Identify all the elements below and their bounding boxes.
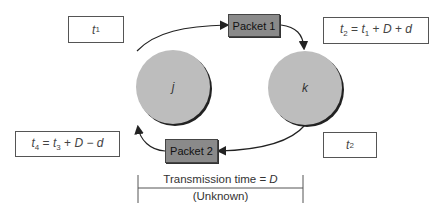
packet-2: Packet 2 bbox=[165, 139, 218, 163]
node-j: j bbox=[136, 50, 210, 124]
packet-1-label: Packet 1 bbox=[233, 20, 276, 32]
unknown-text: (Unknown) bbox=[193, 190, 249, 202]
t4-op1: + bbox=[61, 136, 75, 150]
t4-op2: − bbox=[83, 136, 97, 150]
t2-op2: + bbox=[392, 22, 406, 36]
t1-sub: 1 bbox=[95, 25, 99, 34]
arrow-j-to-packet1 bbox=[137, 25, 227, 51]
t2-eq: = bbox=[348, 22, 362, 36]
time-box-t4-formula: t4 = t3 + D − d bbox=[15, 131, 120, 157]
t2-sub: 2 bbox=[349, 141, 353, 150]
time-box-t1: t1 bbox=[68, 16, 124, 43]
t2-D: D bbox=[383, 22, 392, 36]
t4-D: D bbox=[74, 136, 83, 150]
time-box-t2: t2 bbox=[323, 132, 377, 158]
arrow-packet1-to-k bbox=[281, 25, 304, 48]
t2-op1: + bbox=[369, 22, 383, 36]
t4-eq: = bbox=[39, 136, 53, 150]
t2-d: d bbox=[405, 22, 412, 36]
node-k-label: k bbox=[302, 81, 308, 95]
arrow-packet2-to-j bbox=[138, 127, 165, 151]
time-box-t2-formula: t2 = t1 + D + d bbox=[323, 17, 429, 44]
node-j-label: j bbox=[172, 80, 175, 94]
transmission-text: Transmission time = bbox=[163, 173, 269, 185]
transmission-D: D bbox=[269, 173, 277, 185]
arrow-k-to-packet2 bbox=[219, 125, 305, 151]
t4-d: d bbox=[97, 136, 104, 150]
packet-1: Packet 1 bbox=[228, 14, 280, 37]
node-k: k bbox=[268, 51, 342, 125]
transmission-unknown-note: (Unknown) bbox=[138, 190, 303, 202]
packet-2-label: Packet 2 bbox=[170, 145, 213, 157]
transmission-time-label: Transmission time = D bbox=[138, 173, 303, 185]
